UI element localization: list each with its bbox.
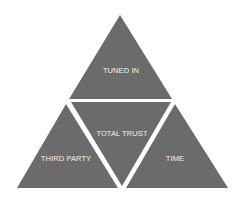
- label-third-party: THIRD PARTY: [41, 155, 91, 163]
- trust-triangle-diagram: TUNED IN TOTAL TRUST THIRD PARTY TIME: [0, 0, 241, 202]
- label-tuned-in: TUNED IN: [103, 67, 139, 75]
- triangle-shapes: [0, 0, 241, 202]
- segment-tuned-in: [69, 15, 172, 99]
- label-total-trust: TOTAL TRUST: [96, 130, 147, 138]
- label-time: TIME: [166, 155, 184, 163]
